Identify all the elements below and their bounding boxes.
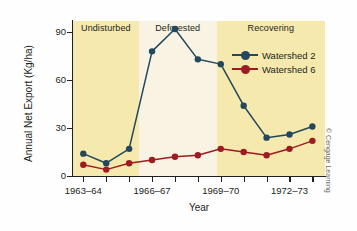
copyright-credit: © Cengage Learning	[325, 128, 332, 193]
data-point	[286, 131, 292, 137]
x-tick-label: 1969–70	[202, 185, 239, 196]
x-tick	[83, 177, 84, 182]
x-tick	[106, 177, 107, 182]
data-point	[286, 146, 292, 152]
data-point	[126, 146, 132, 152]
x-tick	[267, 177, 268, 182]
data-point	[126, 160, 132, 166]
data-point	[80, 150, 86, 156]
x-tick-label: 1966–67	[134, 185, 171, 196]
x-tick	[221, 177, 222, 182]
data-point	[218, 61, 224, 67]
y-axis-label: Annual Net Export (Kg/ha)	[23, 24, 34, 184]
data-point	[263, 134, 269, 140]
data-point	[103, 166, 109, 172]
data-point	[149, 157, 155, 163]
x-tick	[198, 177, 199, 182]
legend-marker-icon	[232, 63, 258, 75]
data-point	[195, 56, 201, 62]
data-point	[263, 152, 269, 158]
data-series-layer	[73, 21, 325, 176]
data-point	[103, 160, 109, 166]
y-tick-label: 60	[42, 74, 66, 85]
data-point	[149, 48, 155, 54]
data-point	[172, 154, 178, 160]
x-tick	[312, 177, 313, 182]
legend-label: Watershed 2	[262, 50, 316, 61]
chart-figure: UndisturbedDeforestedRecovering 0306090 …	[0, 0, 357, 231]
x-tick	[289, 177, 290, 182]
x-tick	[175, 177, 176, 182]
x-tick	[152, 177, 153, 182]
x-tick	[129, 177, 130, 182]
y-tick-label: 90	[42, 26, 66, 37]
data-point	[240, 102, 246, 108]
data-point	[218, 146, 224, 152]
x-tick-label: 1963–64	[65, 185, 102, 196]
data-point	[309, 123, 315, 129]
y-tick-label: 30	[42, 122, 66, 133]
data-point	[309, 138, 315, 144]
data-point	[240, 149, 246, 155]
x-axis-label: Year	[73, 202, 325, 213]
x-tick-label: 1972–73	[271, 185, 308, 196]
y-tick-label: 0	[42, 170, 66, 181]
legend-marker-icon	[232, 49, 258, 61]
data-point	[80, 162, 86, 168]
data-point	[172, 26, 178, 32]
legend-label: Watershed 6	[262, 64, 316, 75]
data-point	[195, 152, 201, 158]
y-tick	[67, 176, 73, 177]
legend-item-watershed-6[interactable]: Watershed 6	[232, 62, 316, 76]
legend-item-watershed-2[interactable]: Watershed 2	[232, 48, 316, 62]
x-tick	[244, 177, 245, 182]
chart-legend: Watershed 2Watershed 6	[232, 48, 316, 76]
